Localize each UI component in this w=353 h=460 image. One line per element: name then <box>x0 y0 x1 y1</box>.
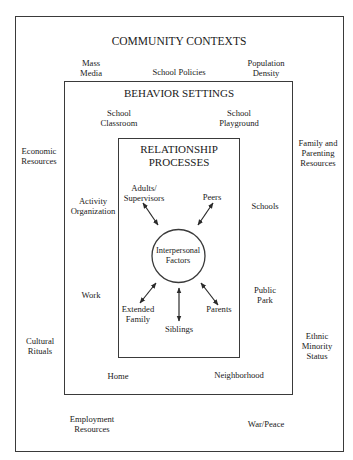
label-peers: Peers <box>203 192 222 202</box>
community-contexts-title: COMMUNITY CONTEXTS <box>112 35 247 48</box>
label-work: Work <box>82 290 101 300</box>
label-public-park: Public Park <box>254 285 276 305</box>
label-neighborhood: Neighborhood <box>214 370 264 380</box>
interpersonal-factors-label: Interpersonal Factors <box>156 246 200 266</box>
relationship-processes-title: RELATIONSHIP PROCESSES <box>140 143 218 169</box>
label-economic-resources: Economic Resources <box>21 146 56 166</box>
label-cultural-rituals: Cultural Rituals <box>26 336 54 356</box>
label-school-policies: School Policies <box>152 67 205 77</box>
label-war-peace: War/Peace <box>248 419 285 429</box>
label-schools: Schools <box>251 201 278 211</box>
label-family-parenting-resources: Family and Parenting Resources <box>299 138 338 168</box>
label-parents: Parents <box>206 304 231 314</box>
label-school-classroom: School Classroom <box>101 108 138 128</box>
behavior-settings-title: BEHAVIOR SETTINGS <box>124 87 234 100</box>
label-extended-family: Extended Family <box>122 304 154 324</box>
label-activity-organization: Activity Organization <box>71 196 116 216</box>
label-ethnic-minority-status: Ethnic Minority Status <box>302 331 333 361</box>
label-employment-resources: Employment Resources <box>70 414 114 434</box>
label-adults-supervisors: Adults/ Supervisors <box>124 183 165 203</box>
label-population-density: Population Density <box>247 58 284 78</box>
label-mass-media: Mass Media <box>80 58 102 78</box>
label-home: Home <box>107 371 128 381</box>
label-school-playground: School Playground <box>219 108 259 128</box>
label-siblings: Siblings <box>165 324 193 334</box>
